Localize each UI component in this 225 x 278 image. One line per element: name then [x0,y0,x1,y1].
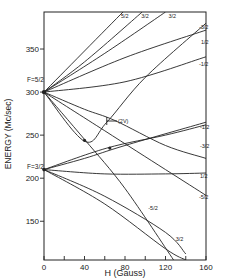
quantum-number-label: 3/2 [176,236,184,242]
plot-frame [44,12,206,260]
f-upper-label: F=5/2 [27,76,44,83]
quantum-number-label: 3/2 [169,13,177,19]
quantum-number-label: -3/2 [200,143,209,149]
energy-curve [44,12,142,92]
quantum-number-label: 1/2 [200,173,208,179]
x-tick-label: 0 [42,263,47,272]
energy-curve [44,170,186,254]
quantum-number-label: -5/2 [148,205,157,211]
energy-curve [44,92,174,260]
quantum-number-label: 3/2 [141,13,149,19]
energy-curve [44,122,206,169]
energy-curves [44,12,206,260]
energy-curve [44,170,206,175]
y-axis-ticks: 150200250300350 [26,45,44,226]
energy-curve [44,23,206,142]
f-lower-label: F=3/2 [27,163,44,170]
y-tick-label: 350 [26,45,40,54]
x-tick-label: 160 [199,263,213,272]
quantum-number-label: -1/2 [199,61,208,67]
energy-curve [44,12,123,92]
quantum-number-label: -3/2 [199,24,208,30]
quantum-number-label: -5/2 [199,194,208,200]
x-tick-label: 120 [159,263,173,272]
x-axis-label: H (Gauss) [104,268,145,278]
energy-level-chart: 04080120160 150200250300350 5/23/23/2-3/… [0,0,225,278]
x-tick-label: 40 [80,263,89,272]
y-axis-label: ENERGY (Mc/sec) [3,98,13,169]
quantum-number-label: -1/2 [200,124,209,130]
y-tick-label: 250 [26,131,40,140]
energy-curve [44,12,166,92]
quantum-number-label: 1/2 [201,39,209,45]
crossing-marker-label: (2V) [118,118,129,124]
y-tick-label: 150 [26,217,40,226]
quantum-number-label: 5/2 [121,13,129,19]
y-tick-label: 300 [26,88,40,97]
crossing-dot [83,139,86,142]
crossing-dot [108,146,111,149]
y-tick-label: 200 [26,174,40,183]
